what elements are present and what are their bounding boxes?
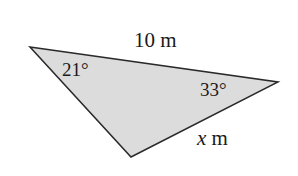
side-length-label-bottom: x m [197, 128, 228, 149]
unknown-variable-x: x [197, 126, 206, 150]
angle-label-left: 21° [62, 60, 89, 79]
angle-label-right: 33° [200, 80, 227, 99]
side-length-label-top: 10 m [134, 30, 177, 51]
triangle-svg [0, 0, 298, 176]
unit-meters: m [212, 126, 228, 150]
geometry-figure: 10 m 21° 33° x m [0, 0, 298, 176]
